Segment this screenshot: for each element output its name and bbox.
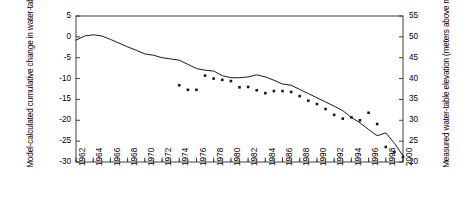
measured-scatter-series [178,74,404,158]
plot-area [0,0,468,216]
plot-frame [76,16,403,162]
model-line-series [76,35,403,156]
chart-figure: Model-calculated cumulative change in wa… [0,0,468,216]
